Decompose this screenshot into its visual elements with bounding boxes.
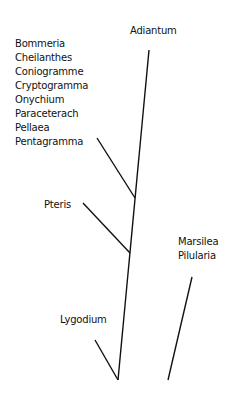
label-pilularia: Pilularia [178,249,216,263]
branch-marsilea [168,277,192,380]
taxon-label: Bommeria [15,37,88,51]
branch-pteris [83,203,130,253]
pteridoid-taxa-list: Bommeria Cheilanthes Coniogramme Cryptog… [15,37,88,149]
branch-pteridoid-group [97,138,135,198]
label-lygodium: Lygodium [60,313,107,327]
label-adiantum: Adiantum [130,24,177,38]
taxon-label: Onychium [15,93,88,107]
taxon-label: Pellaea [15,121,88,135]
taxon-label: Cryptogramma [15,79,88,93]
label-pteris: Pteris [44,198,71,212]
tree-diagram: Adiantum Bommeria Cheilanthes Coniogramm… [0,0,231,396]
main-stem [118,50,149,380]
taxon-label: Pentagramma [15,135,88,149]
taxon-label: Coniogramme [15,65,88,79]
label-marsilea: Marsilea [178,235,218,249]
taxon-label: Paraceterach [15,107,88,121]
taxon-label: Cheilanthes [15,51,88,65]
branch-lygodium [95,340,118,380]
